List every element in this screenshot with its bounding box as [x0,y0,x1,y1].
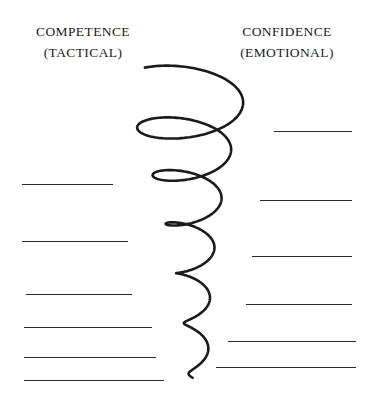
writing-rule-right-2 [260,200,352,201]
spiral-path [137,66,243,378]
writing-rule-right-4 [246,304,352,305]
heading-confidence: CONFIDENCE (EMOTIONAL) [212,22,362,63]
heading-competence-subtitle: (TACTICAL) [8,43,158,64]
writing-rule-right-5 [228,341,356,342]
writing-rule-left-5 [24,357,156,358]
writing-rule-left-2 [22,241,128,242]
heading-confidence-subtitle: (EMOTIONAL) [212,43,362,64]
heading-competence-title: COMPETENCE [36,24,130,39]
writing-rule-left-3 [26,294,132,295]
diagram-canvas: COMPETENCE (TACTICAL) CONFIDENCE (EMOTIO… [0,0,368,394]
writing-rule-left-4 [24,327,152,328]
writing-rule-right-6 [216,367,356,368]
writing-rule-left-6 [24,380,164,381]
writing-rule-right-3 [252,256,352,257]
writing-rule-right-1 [274,131,352,132]
heading-competence: COMPETENCE (TACTICAL) [8,22,158,63]
writing-rule-left-1 [22,184,113,185]
heading-confidence-title: CONFIDENCE [242,24,332,39]
